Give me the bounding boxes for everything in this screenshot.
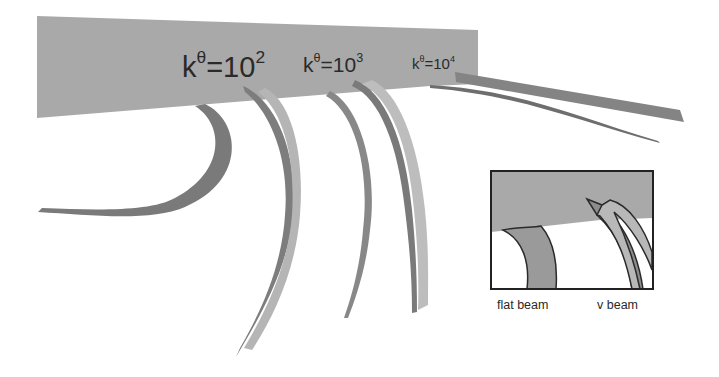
beam-k3-v-dark (352, 80, 417, 313)
inset-caption-flat-beam: flat beam (497, 298, 548, 312)
label-symbol: k (412, 55, 420, 72)
beam-k2-flat (38, 104, 232, 216)
label-equals: =10 (206, 51, 255, 83)
label-superscript: θ (197, 47, 207, 67)
inset-caption-v-beam: v beam (597, 298, 638, 312)
beam-k3-v-light (362, 80, 428, 310)
stiffness-label-1e4: kθ=104 (412, 56, 455, 71)
beam-k3-flat (326, 91, 372, 318)
stiffness-label-1e3: kθ=103 (303, 54, 363, 75)
label-equals: =10 (425, 55, 450, 72)
inset-panel (491, 171, 653, 289)
label-superscript: θ (314, 51, 321, 65)
label-exponent: 2 (255, 47, 265, 67)
label-exponent: 4 (450, 54, 455, 64)
label-exponent: 3 (356, 51, 363, 65)
label-equals: =10 (321, 53, 357, 76)
label-superscript: θ (420, 54, 425, 64)
label-symbol: k (182, 51, 197, 83)
stiffness-label-1e2: kθ=102 (182, 52, 265, 82)
label-symbol: k (303, 53, 314, 76)
